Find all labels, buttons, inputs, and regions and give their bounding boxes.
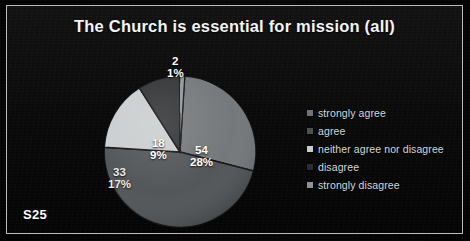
slide-canvas: The Church is essential for mission (all… xyxy=(0,0,470,241)
pie-label-percent: 1% xyxy=(167,67,184,79)
legend-swatch-icon xyxy=(307,146,313,152)
legend-item-label: neither agree nor disagree xyxy=(318,143,444,155)
legend-swatch-icon xyxy=(307,110,313,116)
legend-swatch-icon xyxy=(307,164,313,170)
pie-label-neither-agree-nor-disagree: 33 17% xyxy=(108,166,131,191)
pie-label-value: 2 xyxy=(172,55,178,67)
legend-item-agree[interactable]: agree xyxy=(307,122,459,140)
chart-title: The Church is essential for mission (all… xyxy=(7,17,462,36)
legend-item-neither-agree-nor-disagree[interactable]: neither agree nor disagree xyxy=(307,140,459,158)
pie-label-value: 54 xyxy=(195,144,208,156)
chart-legend: strongly agree agree neither agree nor d… xyxy=(307,104,459,194)
pie-label-disagree: 18 9% xyxy=(150,137,167,162)
pie-label-strongly-disagree: 2 1% xyxy=(167,55,184,80)
legend-item-strongly-agree[interactable]: strongly agree xyxy=(307,104,459,122)
pie-label-value: 33 xyxy=(113,166,126,178)
slide-code: S25 xyxy=(23,207,47,222)
pie-label-value: 87 xyxy=(254,232,267,234)
pie-label-percent: 9% xyxy=(150,149,167,161)
legend-item-disagree[interactable]: disagree xyxy=(307,158,459,176)
pie-label-value: 18 xyxy=(152,137,165,149)
pie-label-percent: 17% xyxy=(108,178,131,190)
legend-item-strongly-disagree[interactable]: strongly disagree xyxy=(307,176,459,194)
pie-chart: 54 28% 87 45% 33 17% 18 9% 2 1% xyxy=(95,66,265,234)
legend-item-label: strongly disagree xyxy=(318,179,400,191)
pie-label-strongly-agree: 54 28% xyxy=(190,144,213,169)
slide-frame: The Church is essential for mission (all… xyxy=(6,5,463,234)
legend-item-label: agree xyxy=(318,125,345,137)
pie-label-percent: 28% xyxy=(190,156,213,168)
legend-swatch-icon xyxy=(307,128,313,134)
pie-label-agree: 87 45% xyxy=(249,232,272,234)
legend-swatch-icon xyxy=(307,182,313,188)
leader-line xyxy=(180,83,181,113)
legend-item-label: disagree xyxy=(318,161,359,173)
legend-item-label: strongly agree xyxy=(318,107,386,119)
